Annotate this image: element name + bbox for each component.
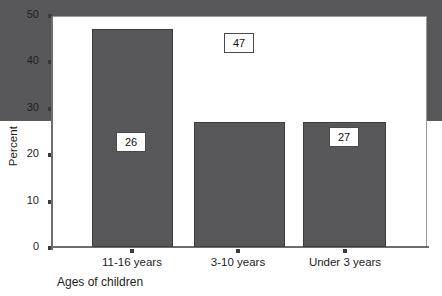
x-tick-mark-2	[236, 249, 240, 253]
x-axis-title: Ages of children	[57, 275, 143, 289]
y-tick-label-20: 20	[27, 147, 39, 159]
value-label-bar-3: 27	[329, 127, 359, 147]
x-tick-mark-3	[343, 249, 347, 253]
bar-chart: Percent 0 10 20 30 40 50 26 47 27 11	[0, 0, 442, 121]
x-tick-label-3: Under 3 years	[275, 256, 415, 268]
x-tick-mark-1	[130, 249, 134, 253]
y-axis-line	[51, 16, 53, 250]
y-tick-label-0: 0	[33, 240, 39, 252]
value-label-bar-1: 26	[116, 132, 146, 152]
y-tick-label-40: 40	[27, 54, 39, 66]
y-axis-title: Percent	[7, 101, 19, 191]
value-label-bar-2: 47	[224, 33, 254, 53]
y-tick-label-10: 10	[27, 194, 39, 206]
y-tick-label-50: 50	[27, 8, 39, 20]
y-tick-label-30: 30	[27, 101, 39, 113]
bar-2[interactable]	[194, 122, 285, 247]
